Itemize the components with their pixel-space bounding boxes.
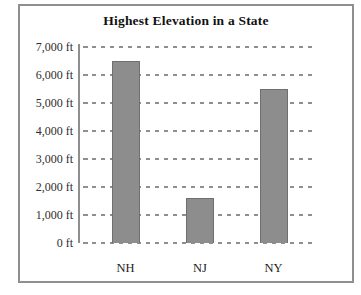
gridline-7000 <box>83 46 313 48</box>
bar-chart-figure: Highest Elevation in a State 7,000 ft6,0… <box>0 0 361 295</box>
y-axis-tick-label-0: 0 ft <box>18 235 73 251</box>
bar-nh <box>112 61 140 243</box>
y-axis-line <box>78 44 80 243</box>
y-axis-tick-label-4000: 4,000 ft <box>18 123 73 139</box>
x-axis-label-ny: NY <box>244 261 304 276</box>
y-axis-tick-label-6000: 6,000 ft <box>18 67 73 83</box>
bar-nj <box>186 198 214 243</box>
y-axis-tick-label-3000: 3,000 ft <box>18 151 73 167</box>
chart-title: Highest Elevation in a State <box>19 13 353 29</box>
bar-ny <box>260 89 288 243</box>
y-axis-tick-label-7000: 7,000 ft <box>18 39 73 55</box>
x-axis-label-nj: NJ <box>170 261 230 276</box>
y-axis-tick-label-2000: 2,000 ft <box>18 179 73 195</box>
y-axis-tick-label-5000: 5,000 ft <box>18 95 73 111</box>
x-axis-label-nh: NH <box>96 261 156 276</box>
y-axis-tick-label-1000: 1,000 ft <box>18 207 73 223</box>
